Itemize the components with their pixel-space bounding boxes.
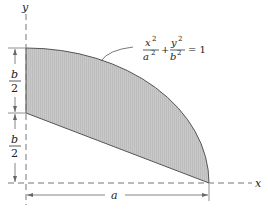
ellipse-equation: x 2 a 2 + y 2 b 2 = 1 bbox=[143, 35, 206, 62]
lower-dim-arrow-down-icon bbox=[13, 176, 17, 182]
area-diagram: y x b 2 b 2 a x 2 a 2 + y 2 b 2 = 1 bbox=[0, 0, 268, 217]
svg-text:= 1: = 1 bbox=[188, 44, 206, 55]
lower-dim-num: b bbox=[11, 133, 18, 146]
svg-text:b: b bbox=[170, 51, 176, 62]
upper-dim-den: 2 bbox=[11, 82, 18, 95]
upper-dim-arrow-down-icon bbox=[13, 106, 17, 112]
lower-dim-arrow-up-icon bbox=[13, 114, 17, 120]
x-axis-label: x bbox=[255, 177, 262, 190]
lower-dim-den: 2 bbox=[11, 147, 18, 160]
svg-text:2: 2 bbox=[151, 49, 155, 57]
svg-text:2: 2 bbox=[177, 49, 181, 57]
shaded-region bbox=[26, 48, 209, 183]
svg-text:+: + bbox=[161, 44, 169, 55]
a-dim-arrow-left-icon bbox=[27, 193, 33, 197]
a-dim-label: a bbox=[111, 189, 118, 202]
upper-dim-arrow-up-icon bbox=[13, 49, 17, 55]
upper-dim-num: b bbox=[11, 68, 18, 81]
a-dim-arrow-right-icon bbox=[202, 193, 208, 197]
y-axis-label: y bbox=[21, 1, 29, 14]
svg-text:2: 2 bbox=[178, 35, 182, 43]
equation-leader-line bbox=[101, 47, 133, 61]
svg-text:y: y bbox=[170, 37, 177, 48]
svg-text:x: x bbox=[145, 37, 151, 48]
svg-text:a: a bbox=[143, 51, 149, 62]
svg-text:2: 2 bbox=[152, 35, 156, 43]
